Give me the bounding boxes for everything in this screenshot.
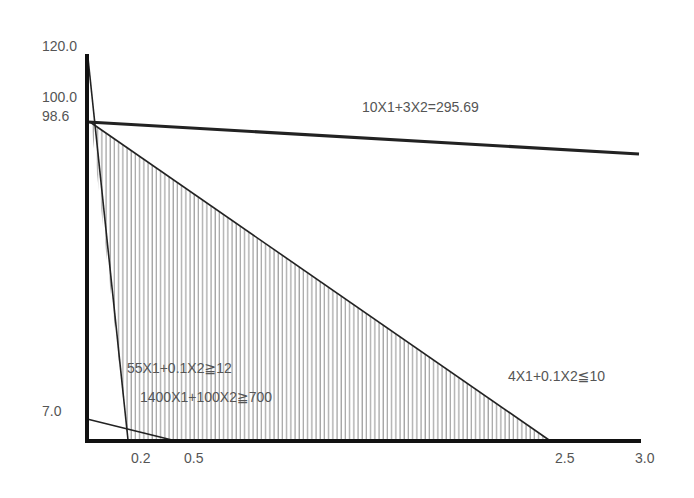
constraint-55x1-label: 55X1+0.1X2≧12 [127,360,232,376]
x-tick-2-5: 2.5 [555,450,574,466]
x-tick-0-5: 0.5 [184,450,203,466]
objective-line [88,122,639,154]
y-tick-120: 120.0 [42,38,77,54]
x-tick-0-2: 0.2 [131,450,150,466]
constraint-4x1-label: 4X1+0.1X2≦10 [508,368,605,384]
constraint-1400x1-label: 1400X1+100X2≧700 [140,389,272,405]
objective-label: 10X1+3X2=295.69 [362,99,479,115]
y-tick-98-6: 98.6 [42,108,69,124]
y-tick-7: 7.0 [42,403,61,419]
x-tick-3-0: 3.0 [635,450,654,466]
y-tick-100: 100.0 [42,89,77,105]
lp-chart [0,0,694,498]
